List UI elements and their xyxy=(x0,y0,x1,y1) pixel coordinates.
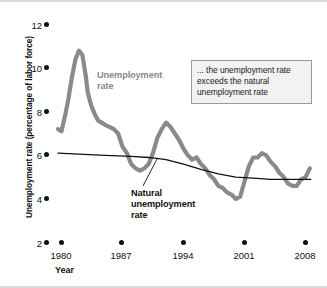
series-label-unemployment-rate: Unemployment rate xyxy=(97,70,177,92)
unemployment-rate-chart: Unemployment rate (percentage of labor f… xyxy=(0,0,327,288)
callout-annotation: ... the unemployment rate exceeds the na… xyxy=(191,60,312,104)
plot-area xyxy=(0,0,327,288)
series-label-natural-unemployment-rate: Natural unemployment rate xyxy=(131,188,213,222)
